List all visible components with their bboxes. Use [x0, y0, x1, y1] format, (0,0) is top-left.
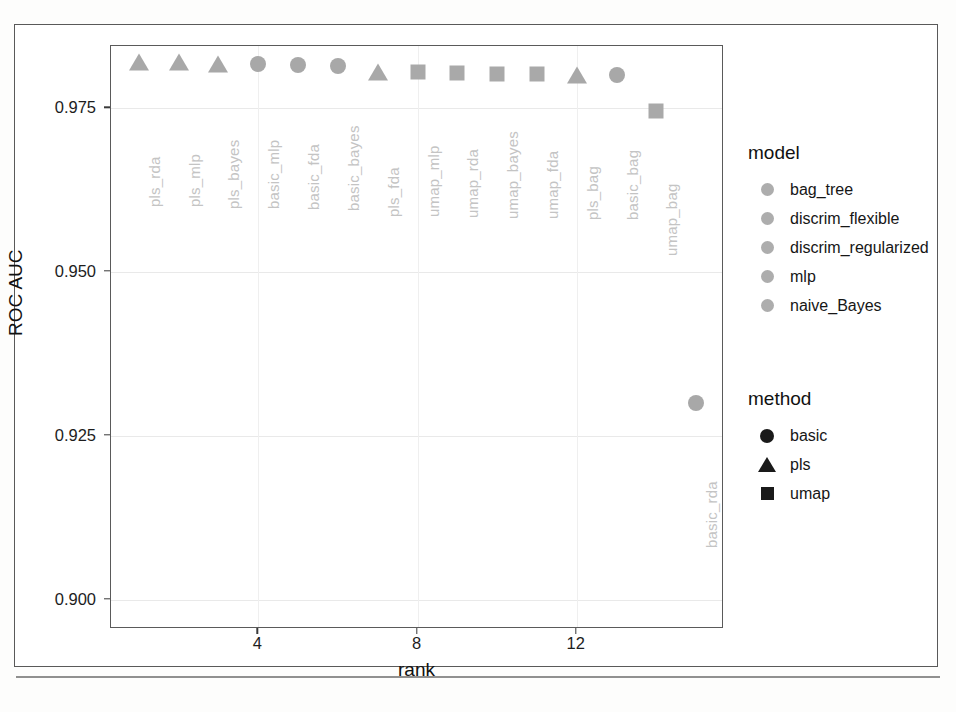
- y-tick-label: 0.975: [55, 98, 96, 117]
- circle-marker-icon: [761, 183, 774, 196]
- data-point-umap_bayes: [490, 66, 505, 81]
- gridline-horizontal: [111, 600, 722, 601]
- data-point-umap_bag: [649, 103, 664, 118]
- data-point-basic_mlp: [250, 56, 266, 72]
- legend-key: [754, 241, 780, 254]
- data-point-pls_rda: [129, 54, 149, 71]
- legend-key: [754, 270, 780, 283]
- point-label-pls_fda: pls_fda: [385, 167, 402, 217]
- point-label-umap_rda: umap_rda: [464, 149, 481, 218]
- legend-key: [754, 299, 780, 312]
- y-tick-mark: [104, 598, 110, 599]
- legend-key: [754, 429, 780, 443]
- plot-panel: pls_rdapls_mlppls_bayesbasic_mlpbasic_fd…: [110, 45, 723, 628]
- circle-marker-icon: [761, 212, 774, 225]
- legend-item-label: umap: [790, 485, 830, 503]
- legend-key: [754, 487, 780, 500]
- triangle-marker-icon: [758, 457, 776, 472]
- point-label-pls_rda: pls_rda: [146, 157, 163, 208]
- x-tick-mark: [575, 628, 576, 634]
- circle-marker-icon: [760, 429, 774, 443]
- data-point-basic_fda: [290, 57, 306, 73]
- point-label-pls_bayes: pls_bayes: [225, 139, 242, 208]
- data-point-pls_bayes: [208, 55, 228, 72]
- data-point-basic_bayes: [330, 58, 346, 74]
- data-point-pls_mlp: [169, 54, 189, 71]
- legend-key: [754, 183, 780, 196]
- point-label-umap_bayes: umap_bayes: [504, 131, 521, 219]
- legend-method-title: method: [748, 388, 830, 410]
- circle-marker-icon: [761, 299, 774, 312]
- point-label-umap_bag: umap_bag: [663, 183, 680, 256]
- legend-item-label: discrim_flexible: [790, 210, 899, 228]
- y-tick-mark: [104, 270, 110, 271]
- gridline-horizontal: [111, 272, 722, 273]
- point-label-pls_bag: pls_bag: [584, 166, 601, 220]
- legend-item-model-discrim_regularized[interactable]: discrim_regularized: [748, 233, 929, 262]
- legend-item-method-basic[interactable]: basic: [748, 421, 830, 450]
- gridline-vertical: [258, 46, 259, 627]
- y-tick-mark: [104, 434, 110, 435]
- gridline-vertical: [418, 46, 419, 627]
- point-label-pls_mlp: pls_mlp: [186, 154, 203, 207]
- x-tick-label: 12: [567, 634, 585, 653]
- legend-item-label: pls: [790, 456, 810, 474]
- y-axis-title: ROC AUC: [5, 249, 27, 336]
- legend-model-title: model: [748, 142, 929, 164]
- screenshot-root: pls_rdapls_mlppls_bayesbasic_mlpbasic_fd…: [0, 0, 956, 712]
- point-label-basic_fda: basic_fda: [305, 144, 322, 210]
- x-tick-label: 8: [412, 634, 421, 653]
- legend-key: [754, 457, 780, 472]
- x-tick-label: 4: [253, 634, 262, 653]
- data-point-pls_bag: [567, 66, 587, 83]
- data-point-basic_bag: [609, 67, 625, 83]
- legend-item-method-pls[interactable]: pls: [748, 450, 830, 479]
- x-tick-mark: [257, 628, 258, 634]
- legend-item-label: discrim_regularized: [790, 239, 929, 257]
- x-tick-mark: [416, 628, 417, 634]
- legend-item-model-bag_tree[interactable]: bag_tree: [748, 175, 929, 204]
- legend-item-label: bag_tree: [790, 181, 853, 199]
- legend-key: [754, 212, 780, 225]
- legend-item-label: basic: [790, 427, 827, 445]
- x-axis-title: rank: [110, 659, 723, 681]
- legend-method-items: basicplsumap: [748, 421, 830, 508]
- legend-item-label: mlp: [790, 268, 816, 286]
- y-tick-label: 0.950: [55, 261, 96, 280]
- point-label-basic_bag: basic_bag: [624, 150, 641, 220]
- circle-marker-icon: [761, 241, 774, 254]
- legend-model: model bag_treediscrim_flexiblediscrim_re…: [748, 142, 929, 320]
- gridline-vertical: [577, 46, 578, 627]
- legend-item-method-umap[interactable]: umap: [748, 479, 830, 508]
- y-tick-label: 0.900: [55, 589, 96, 608]
- gridline-horizontal: [111, 436, 722, 437]
- legend-item-model-naive_Bayes[interactable]: naive_Bayes: [748, 291, 929, 320]
- y-tick-label: 0.925: [55, 425, 96, 444]
- legend-item-model-mlp[interactable]: mlp: [748, 262, 929, 291]
- point-label-umap_fda: umap_fda: [544, 150, 561, 218]
- data-point-umap_fda: [529, 66, 544, 81]
- y-tick-mark: [104, 107, 110, 108]
- legend-method: method basicplsumap: [748, 388, 830, 508]
- data-point-basic_rda: [688, 395, 704, 411]
- square-marker-icon: [761, 487, 774, 500]
- data-point-umap_rda: [450, 65, 465, 80]
- legend-item-label: naive_Bayes: [790, 297, 882, 315]
- legend-item-model-discrim_flexible[interactable]: discrim_flexible: [748, 204, 929, 233]
- data-point-umap_mlp: [410, 65, 425, 80]
- point-label-basic_mlp: basic_mlp: [265, 140, 282, 209]
- point-label-basic_rda: basic_rda: [703, 481, 720, 548]
- data-point-pls_fda: [368, 63, 388, 80]
- point-label-umap_mlp: umap_mlp: [425, 146, 442, 218]
- gridline-horizontal: [111, 108, 722, 109]
- legend-model-items: bag_treediscrim_flexiblediscrim_regulari…: [748, 175, 929, 320]
- point-label-basic_bayes: basic_bayes: [345, 126, 362, 212]
- scatter-plot: pls_rdapls_mlppls_bayesbasic_mlpbasic_fd…: [0, 0, 956, 712]
- circle-marker-icon: [761, 270, 774, 283]
